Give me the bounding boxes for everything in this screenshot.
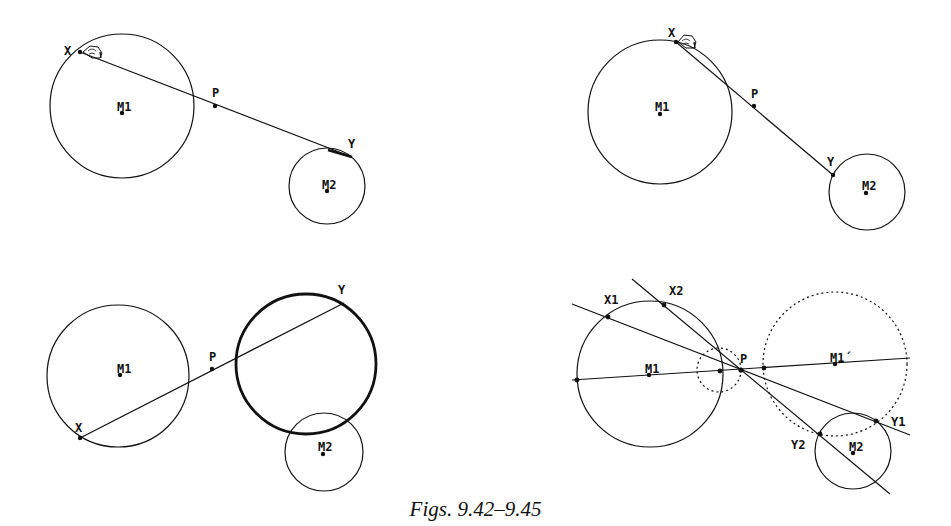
- label-m2: M2: [849, 440, 863, 454]
- label-y: Y: [348, 137, 356, 151]
- point-x: [78, 50, 81, 53]
- point-x1: [606, 315, 610, 319]
- label-x: X: [75, 421, 83, 435]
- label-p: P: [209, 350, 216, 364]
- label-m1: M1: [117, 100, 131, 114]
- point-p: [752, 104, 755, 107]
- label-m2: M2: [322, 178, 336, 192]
- point-y2: [818, 432, 822, 436]
- point-x: [674, 40, 677, 43]
- figure-caption: Figs. 9.42–9.45: [0, 497, 951, 522]
- line-xy: [676, 42, 833, 175]
- circle-bold: [236, 294, 376, 434]
- label-m1-prime: M1´: [830, 351, 852, 365]
- point-y1: [874, 419, 878, 423]
- circle-m1: [47, 305, 189, 447]
- label-p: P: [212, 86, 219, 100]
- figure-9-45: [572, 279, 910, 494]
- label-x: X: [668, 26, 676, 40]
- label-m2: M2: [862, 179, 876, 193]
- label-m1: M1: [645, 362, 659, 376]
- point-p: [739, 368, 743, 372]
- point-p: [210, 367, 213, 370]
- point-x2: [662, 303, 666, 307]
- line-x2-y2: [632, 279, 890, 494]
- label-m1: M1: [117, 362, 131, 376]
- label-x1: X1: [604, 293, 618, 307]
- label-p: P: [740, 352, 747, 366]
- label-p: P: [751, 87, 758, 101]
- label-m2: M2: [318, 440, 332, 454]
- label-m1: M1: [655, 100, 669, 114]
- diagram-canvas: X P Y M1 M2 X P Y M1 M2: [0, 0, 951, 526]
- figure-9-44: [47, 294, 376, 491]
- label-y1: Y1: [891, 415, 905, 429]
- label-y: Y: [827, 155, 835, 169]
- label-y: Y: [338, 283, 346, 297]
- figure-9-43: [588, 35, 905, 230]
- figure-9-42: [50, 34, 365, 224]
- label-x2: X2: [669, 284, 683, 298]
- point-x: [78, 436, 81, 439]
- point-p: [213, 104, 216, 107]
- label-x: X: [64, 44, 72, 58]
- label-y2: Y2: [791, 438, 805, 452]
- point-y: [831, 173, 834, 176]
